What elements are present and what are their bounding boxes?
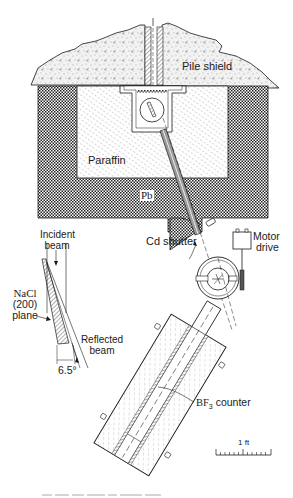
motor-drive-label-line2: drive <box>256 242 279 253</box>
incident-beam-label-line1: Incident <box>40 229 74 240</box>
reflected-beam-label-line2: beam <box>80 345 124 356</box>
scale-label: 1 ft <box>238 437 249 448</box>
nacl-label-line3: plane <box>11 310 39 321</box>
figure-caption-clipped <box>42 494 232 498</box>
lead-label: Pb <box>140 190 154 201</box>
paraffin-label: Paraffin <box>88 155 126 166</box>
bf3-prefix: BF <box>196 397 209 408</box>
pile-shield-label: Pile shield <box>182 61 232 72</box>
incident-beam-label-line2: beam <box>40 240 74 251</box>
cd-shutter-label: Cd shutter <box>146 236 197 247</box>
angle-label: 6.5° <box>58 365 77 376</box>
scale-bar <box>216 449 271 455</box>
bf3-suffix: counter <box>213 396 251 408</box>
diagram-canvas: Pile shield Paraffin Pb Cd shutter Motor… <box>0 0 293 498</box>
reflected-beam-label-line1: Reflected <box>80 334 124 345</box>
bf3-counter-assembly <box>87 284 248 479</box>
bf3-counter-label: BF3 counter <box>196 397 251 412</box>
